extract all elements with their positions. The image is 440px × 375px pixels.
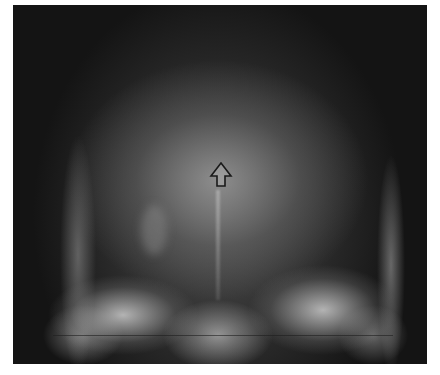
xray-image [13,5,427,364]
up-arrow-icon [209,162,233,188]
film-line-artifact [53,335,393,336]
